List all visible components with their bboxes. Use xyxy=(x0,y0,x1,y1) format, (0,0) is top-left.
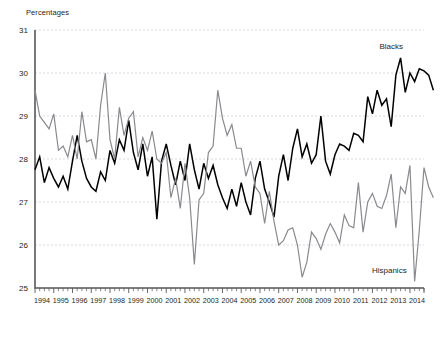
line-chart-plot: 25262728293031 1994199519961997199819992… xyxy=(0,0,448,339)
x-tick-label: 2000 xyxy=(146,296,162,305)
y-tick-label: 31 xyxy=(19,26,28,35)
x-tick-label: 2005 xyxy=(240,296,256,305)
x-tick-label: 2002 xyxy=(184,296,200,305)
chart-container: Percentages 25262728293031 1994199519961… xyxy=(0,0,448,339)
x-tick-label: 2013 xyxy=(390,296,406,305)
y-tick-label: 27 xyxy=(19,198,28,207)
x-axis-tick-labels: 1994199519961997199819992000200120022003… xyxy=(34,296,425,305)
x-tick-label: 2003 xyxy=(203,296,219,305)
series-annotations: BlacksHispanics xyxy=(372,42,407,275)
data-series xyxy=(35,58,433,282)
x-tick-label: 2009 xyxy=(315,296,331,305)
x-tick-label: 1995 xyxy=(53,296,69,305)
chart-axes xyxy=(35,30,424,288)
x-tick-label: 2004 xyxy=(221,296,237,305)
series-label-hispanics: Hispanics xyxy=(372,266,407,275)
y-tick-label: 30 xyxy=(19,69,28,78)
x-tick-label: 2001 xyxy=(165,296,181,305)
x-tick-label: 2014 xyxy=(409,296,425,305)
series-label-blacks: Blacks xyxy=(379,42,403,51)
gridlines xyxy=(35,30,424,288)
y-tick-label: 28 xyxy=(19,155,28,164)
y-tick-label: 29 xyxy=(19,112,28,121)
x-tick-label: 1994 xyxy=(34,296,50,305)
x-tick-label: 2007 xyxy=(278,296,294,305)
x-tick-label: 1996 xyxy=(71,296,87,305)
x-tick-label: 1997 xyxy=(90,296,106,305)
y-tick-label: 25 xyxy=(19,284,28,293)
x-tick-label: 1999 xyxy=(128,296,144,305)
x-tick-label: 2010 xyxy=(334,296,350,305)
x-tick-label: 1998 xyxy=(109,296,125,305)
x-tick-label: 2008 xyxy=(296,296,312,305)
axis-lines xyxy=(35,30,424,288)
x-tick-label: 2006 xyxy=(259,296,275,305)
y-axis-tick-labels: 25262728293031 xyxy=(19,26,28,293)
x-tick-label: 2012 xyxy=(371,296,387,305)
x-tick-label: 2011 xyxy=(353,296,368,305)
y-tick-label: 26 xyxy=(19,241,28,250)
